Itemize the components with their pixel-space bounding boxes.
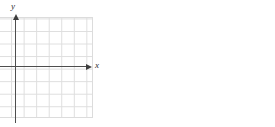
x-axis-label-left: x xyxy=(95,61,99,70)
grid-area-left xyxy=(0,17,93,118)
coordinate-grid-figure-right: y x xyxy=(140,0,275,127)
x-axis-arrow-icon-left xyxy=(86,64,92,70)
y-axis-line-left xyxy=(15,20,16,123)
y-axis-label-left: y xyxy=(11,2,15,11)
screenshot-root: y x y x xyxy=(0,0,275,127)
x-axis-line-left xyxy=(0,66,87,67)
coordinate-grid-figure-left: y x xyxy=(0,0,137,127)
y-axis-arrow-icon-left xyxy=(13,14,19,20)
